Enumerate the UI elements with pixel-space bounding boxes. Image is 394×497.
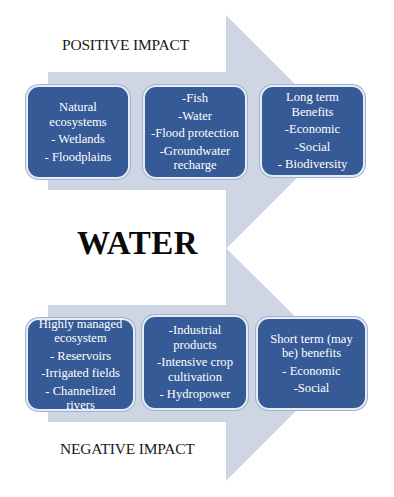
box-line: Natural — [59, 100, 97, 115]
box-line: - Floodplains — [45, 150, 112, 165]
positive-impact-label: POSITIVE IMPACT — [62, 36, 189, 54]
box-line: -Groundwater — [160, 144, 231, 159]
box-line: -Fish — [182, 91, 208, 106]
box-line: ecosystem — [54, 331, 106, 346]
box-line: recharge — [173, 158, 216, 173]
box-line: -Irrigated fields — [41, 366, 120, 381]
box-line: products — [173, 338, 216, 353]
negative-box-managed-ecosystem: Highly managed ecosystem - Reservoirs -I… — [26, 318, 135, 411]
positive-box-services: -Fish -Water -Flood protection -Groundwa… — [143, 85, 247, 179]
box-line: -Water — [178, 109, 212, 124]
positive-box-long-term-benefits: Long term Benefits -Economic -Social - B… — [260, 85, 365, 177]
box-line: -Flood protection — [151, 126, 239, 141]
box-line: Short term (may — [270, 332, 353, 347]
box-line: - Hydropower — [160, 387, 231, 402]
box-line: Long term — [286, 90, 339, 105]
box-line: -Social — [294, 381, 330, 396]
box-line: -Economic — [285, 122, 340, 137]
box-line: cultivation — [168, 370, 222, 385]
box-line: -Industrial — [169, 323, 221, 338]
box-line: - Wetlands — [51, 132, 105, 147]
box-line: Highly managed — [39, 317, 123, 332]
box-line: - Economic — [282, 364, 340, 379]
box-line: ecosystems — [49, 115, 106, 130]
box-line: -Social — [295, 140, 331, 155]
box-line: be) benefits — [282, 346, 341, 361]
negative-box-short-term-benefits: Short term (may be) benefits - Economic … — [256, 317, 367, 410]
box-line: Benefits — [292, 105, 334, 120]
box-line: -Intensive crop — [157, 355, 233, 370]
box-line: - Channelized rivers — [31, 384, 130, 413]
box-line: - Reservoirs — [50, 349, 111, 364]
negative-impact-label: NEGATIVE IMPACT — [60, 440, 195, 458]
negative-box-products: -Industrial products -Intensive crop cul… — [142, 315, 248, 410]
positive-box-natural-ecosystems: Natural ecosystems - Wetlands - Floodpla… — [26, 85, 130, 179]
box-line: - Biodiversity — [278, 157, 348, 172]
water-title: WATER — [77, 225, 198, 262]
